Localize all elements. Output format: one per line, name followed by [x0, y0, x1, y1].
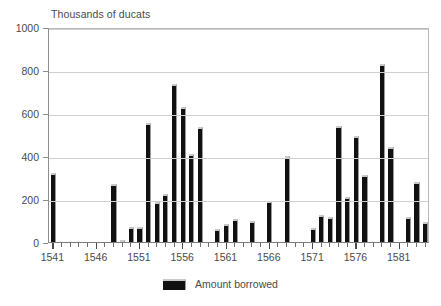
y-axis-tick	[43, 114, 48, 115]
y-axis-title: Thousands of ducats	[51, 8, 150, 20]
gridline	[49, 201, 428, 202]
x-axis-minor-tick	[416, 243, 417, 247]
x-axis-minor-tick	[390, 243, 391, 247]
x-axis-tick-label: 1541	[41, 251, 64, 263]
x-axis-minor-tick	[148, 243, 149, 247]
bar	[146, 123, 151, 242]
x-axis-minor-tick	[130, 243, 131, 247]
x-axis-major-tick	[139, 243, 140, 249]
y-axis-tick-label: 400	[0, 151, 39, 163]
x-axis-minor-tick	[251, 243, 252, 247]
y-axis-tick-label: 200	[0, 194, 39, 206]
legend-label-amount-borrowed: Amount borrowed	[195, 278, 278, 290]
x-axis-tick-label: 1546	[84, 251, 107, 263]
bar	[362, 175, 367, 242]
x-axis-minor-tick	[208, 243, 209, 247]
x-axis-minor-tick	[329, 243, 330, 247]
x-axis-tick-label: 1556	[171, 251, 194, 263]
x-axis-major-tick	[269, 243, 270, 249]
x-axis-minor-tick	[200, 243, 201, 247]
x-axis-tick-label: 1576	[344, 251, 367, 263]
bar	[388, 147, 393, 242]
bar-chart: Thousands of ducats 15411546155115561561…	[0, 0, 441, 306]
x-axis-minor-tick	[321, 243, 322, 247]
bar	[198, 127, 203, 242]
x-axis-major-tick	[52, 243, 53, 249]
x-axis-tick-label: 1581	[387, 251, 410, 263]
y-axis-tick	[43, 243, 48, 244]
bar	[189, 154, 194, 242]
x-axis-minor-tick	[174, 243, 175, 247]
bar	[319, 215, 324, 242]
y-axis-tick	[43, 71, 48, 72]
x-axis-minor-tick	[70, 243, 71, 247]
x-axis-minor-tick	[338, 243, 339, 247]
legend-swatch-amount-borrowed	[163, 279, 186, 290]
y-axis-tick-label: 0	[0, 237, 39, 249]
y-axis-tick	[43, 200, 48, 201]
x-axis-minor-tick	[277, 243, 278, 247]
bar	[423, 222, 428, 242]
x-axis-minor-tick	[165, 243, 166, 247]
bar	[129, 227, 134, 242]
x-axis-minor-tick	[286, 243, 287, 247]
x-axis-minor-tick	[364, 243, 365, 247]
plot-area	[48, 28, 429, 243]
x-axis-minor-tick	[425, 243, 426, 247]
bar	[336, 126, 341, 242]
y-axis-tick-label: 800	[0, 65, 39, 77]
x-axis-minor-tick	[347, 243, 348, 247]
x-axis-minor-tick	[243, 243, 244, 247]
x-axis-major-tick	[182, 243, 183, 249]
x-axis-minor-tick	[122, 243, 123, 247]
bar	[224, 224, 229, 242]
x-axis-major-tick	[399, 243, 400, 249]
bar	[354, 136, 359, 242]
x-axis-major-tick	[312, 243, 313, 249]
x-axis-minor-tick	[78, 243, 79, 247]
x-axis-minor-tick	[234, 243, 235, 247]
bar	[137, 227, 142, 242]
bar	[380, 64, 385, 242]
x-axis-minor-tick	[113, 243, 114, 247]
bar-series-amount-borrowed	[49, 29, 428, 242]
bar	[285, 156, 290, 242]
bar	[120, 240, 125, 242]
x-axis-minor-tick	[295, 243, 296, 247]
legend: Amount borrowed	[0, 278, 441, 290]
x-axis-tick-label: 1566	[257, 251, 280, 263]
y-axis-tick	[43, 157, 48, 158]
bar	[51, 173, 56, 242]
bar	[345, 197, 350, 242]
x-axis-tick-label: 1551	[127, 251, 150, 263]
x-axis-tick-label: 1571	[300, 251, 323, 263]
bar	[414, 182, 419, 242]
x-axis-minor-tick	[191, 243, 192, 247]
bar	[172, 84, 177, 242]
x-axis-major-tick	[96, 243, 97, 249]
bar	[233, 219, 238, 242]
x-axis-minor-tick	[217, 243, 218, 247]
x-axis-minor-tick	[156, 243, 157, 247]
gridline	[49, 72, 428, 73]
y-axis-tick-label: 1000	[0, 22, 39, 34]
y-axis-tick-label: 600	[0, 108, 39, 120]
x-axis-ticks	[48, 243, 429, 250]
y-axis-tick	[43, 28, 48, 29]
x-axis-minor-tick	[104, 243, 105, 247]
x-axis-major-tick	[226, 243, 227, 249]
bar	[111, 184, 116, 242]
x-axis-minor-tick	[87, 243, 88, 247]
gridline	[49, 158, 428, 159]
x-axis-minor-tick	[303, 243, 304, 247]
bar	[181, 107, 186, 242]
bar	[267, 201, 272, 242]
x-axis-minor-tick	[373, 243, 374, 247]
bar	[155, 202, 160, 242]
x-axis-minor-tick	[381, 243, 382, 247]
x-axis-labels: 154115461551155615611566157115761581	[0, 251, 441, 267]
bar	[215, 229, 220, 242]
x-axis-tick-label: 1561	[214, 251, 237, 263]
bar	[311, 228, 316, 242]
bar	[328, 217, 333, 242]
